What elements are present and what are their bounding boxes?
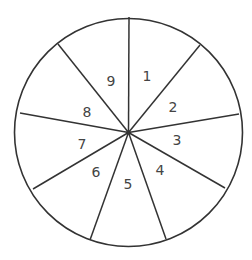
spinner-svg: 123456789 [0, 0, 252, 260]
spoke-line-3 [129, 114, 240, 133]
sector-label-4: 4 [156, 162, 165, 178]
sector-label-2: 2 [169, 99, 178, 115]
spoke-line-8 [20, 113, 129, 133]
center-dot [126, 130, 130, 134]
sector-label-1: 1 [143, 68, 152, 84]
spoke-line-9 [58, 44, 129, 133]
spoke-lines [20, 17, 239, 240]
spinner-diagram: 123456789 [0, 0, 252, 260]
sector-label-9: 9 [107, 73, 116, 89]
sector-label-7: 7 [78, 136, 87, 152]
sector-label-6: 6 [92, 164, 101, 180]
spoke-line-1 [129, 17, 130, 133]
sector-label-8: 8 [83, 104, 92, 120]
sector-label-3: 3 [173, 132, 182, 148]
spoke-line-2 [129, 45, 201, 133]
spoke-line-5 [129, 133, 167, 240]
sector-label-5: 5 [124, 176, 133, 192]
